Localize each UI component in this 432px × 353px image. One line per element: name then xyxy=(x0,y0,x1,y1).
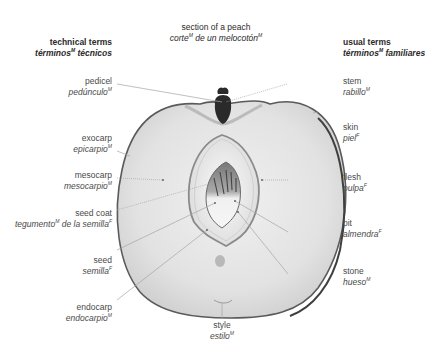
label-endocarp: endocarp endocarpioM xyxy=(66,302,112,323)
label-stone: stone huesoM xyxy=(343,266,370,287)
label-mesocarp: mesocarp mesocarpioM xyxy=(64,170,112,191)
label-stem: stem rabilloM xyxy=(343,76,370,97)
label-pit: pit almendraF xyxy=(343,218,382,239)
label-exocarp: exocarp epicarpioM xyxy=(73,133,112,154)
label-flesh: flesh pulpaF xyxy=(343,172,367,193)
label-skin: skin pielF xyxy=(343,122,359,143)
label-seed: seed semillaF xyxy=(82,255,112,276)
label-pedicel: pedicel pedúnculoM xyxy=(69,76,112,97)
label-style: style estiloM xyxy=(192,320,252,341)
title-en: section of a peach xyxy=(0,22,432,33)
header-technical-terms: technical terms términosM técnicos xyxy=(35,37,112,58)
header-usual-terms: usual terms términosM familiares xyxy=(343,37,425,58)
label-seed-coat: seed coat tegumentoM de la semillaF xyxy=(15,208,112,229)
